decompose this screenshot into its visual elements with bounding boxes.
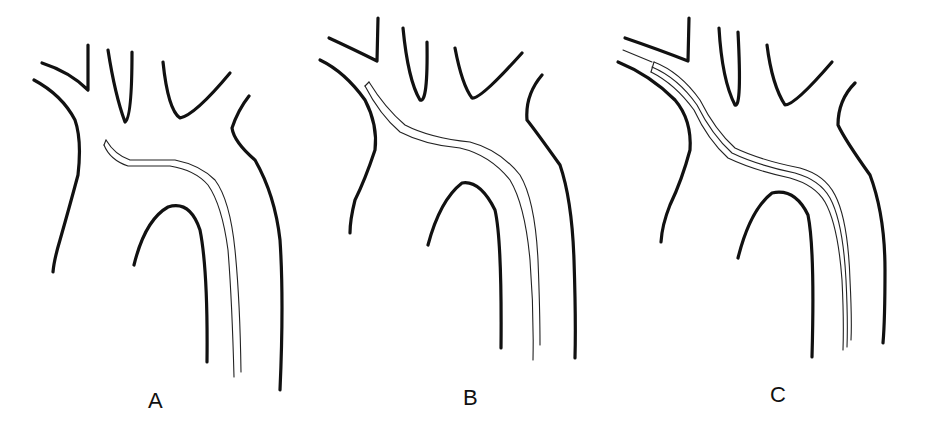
panel-c-drawing xyxy=(618,18,885,357)
panel-label-b: B xyxy=(463,385,478,411)
panel-label-a: A xyxy=(148,388,163,414)
panel-a-drawing xyxy=(34,45,282,390)
aortic-arch-figure xyxy=(0,0,925,444)
panel-label-c: C xyxy=(770,382,786,408)
panel-b-drawing xyxy=(320,18,575,360)
